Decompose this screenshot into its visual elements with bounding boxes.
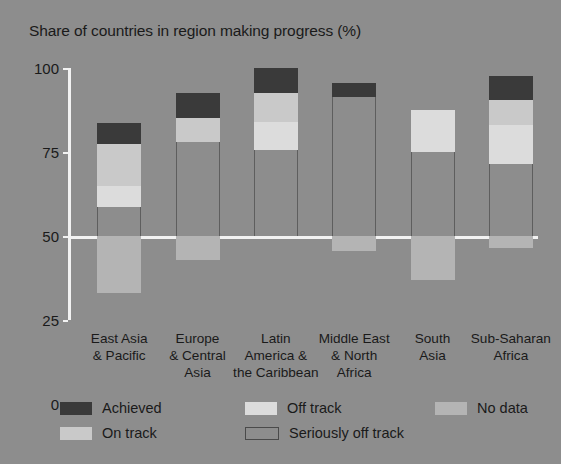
bar-segment-on-track[interactable]	[176, 118, 220, 142]
bar-segment-off-track[interactable]	[254, 122, 298, 151]
bar-segment-achieved[interactable]	[332, 83, 376, 96]
bar-segment-seriously-off-track[interactable]	[489, 164, 533, 236]
category-label-line: Asia	[387, 347, 477, 364]
bar-group-5[interactable]	[411, 68, 455, 320]
bar-segment-seriously-off-track[interactable]	[176, 142, 220, 236]
category-label-1: East Asia& Pacific	[74, 330, 164, 364]
bar-segment-no-data-negative[interactable]	[332, 236, 376, 251]
category-label-line: Sub-Saharan	[466, 330, 556, 347]
category-label-line: Africa	[309, 364, 399, 381]
legend-item-on-track[interactable]: On track	[60, 425, 157, 441]
legend-label: Achieved	[102, 400, 162, 416]
bar-segment-seriously-off-track[interactable]	[411, 152, 455, 236]
achieved-swatch	[60, 402, 92, 415]
plot-area: 100 75 50 25 0 −25 −50 East Asia& Pacifi…	[68, 68, 538, 320]
bar-segment-on-track[interactable]	[254, 93, 298, 122]
category-label-3: LatinAmerica &the Caribbean	[231, 330, 321, 381]
category-label-line: & Central	[152, 347, 242, 364]
legend-item-no-data[interactable]: No data	[435, 400, 528, 416]
seriously-off-track-swatch	[245, 427, 279, 440]
chart-legend: AchievedOn trackOff trackSeriously off t…	[60, 400, 530, 450]
chart-canvas: Share of countries in region making prog…	[0, 0, 561, 464]
bar-segment-no-data-negative[interactable]	[489, 236, 533, 248]
bar-group-4[interactable]	[332, 68, 376, 320]
bar-segment-no-data-negative[interactable]	[97, 236, 141, 293]
y-tick-label-75: 75	[42, 144, 59, 161]
bar-segment-on-track[interactable]	[97, 144, 141, 186]
bar-segment-achieved[interactable]	[97, 123, 141, 143]
bar-segment-off-track[interactable]	[97, 186, 141, 208]
bar-segment-achieved[interactable]	[489, 76, 533, 100]
bar-group-6[interactable]	[489, 68, 533, 320]
bar-segment-off-track[interactable]	[489, 125, 533, 164]
on-track-swatch	[60, 427, 92, 440]
category-label-line: Europe	[152, 330, 242, 347]
y-tick-label-50: 50	[42, 228, 59, 245]
category-label-line: & North	[309, 347, 399, 364]
bar-segment-achieved[interactable]	[254, 68, 298, 93]
chart-title: Share of countries in region making prog…	[29, 22, 361, 40]
category-label-2: Europe& CentralAsia	[152, 330, 242, 381]
category-label-line: Africa	[466, 347, 556, 364]
category-label-4: Middle East& NorthAfrica	[309, 330, 399, 381]
bar-segment-achieved[interactable]	[176, 93, 220, 118]
category-label-6: Sub-SaharanAfrica	[466, 330, 556, 364]
legend-label: No data	[477, 400, 528, 416]
bar-segment-on-track[interactable]	[489, 100, 533, 125]
bar-segment-seriously-off-track[interactable]	[332, 97, 376, 236]
legend-label: Seriously off track	[289, 425, 404, 441]
category-label-line: Latin	[231, 330, 321, 347]
bar-segment-no-data-negative[interactable]	[411, 236, 455, 280]
y-tick-label-100: 100	[34, 60, 59, 77]
category-label-line: & Pacific	[74, 347, 164, 364]
legend-label: Off track	[287, 400, 342, 416]
category-label-line: America &	[231, 347, 321, 364]
bar-segment-seriously-off-track[interactable]	[254, 150, 298, 236]
bar-group-3[interactable]	[254, 68, 298, 320]
bar-segment-no-data-negative[interactable]	[176, 236, 220, 260]
category-label-line: Asia	[152, 364, 242, 381]
y-axis-line	[68, 68, 71, 320]
category-label-5: SouthAsia	[387, 330, 477, 364]
bar-segment-seriously-off-track[interactable]	[97, 207, 141, 236]
legend-item-achieved[interactable]: Achieved	[60, 400, 162, 416]
bar-group-2[interactable]	[176, 68, 220, 320]
category-label-line: the Caribbean	[231, 364, 321, 381]
bar-segment-off-track[interactable]	[411, 110, 455, 152]
legend-item-off-track[interactable]: Off track	[245, 400, 342, 416]
legend-item-seriously-off-track[interactable]: Seriously off track	[245, 425, 404, 441]
bar-group-1[interactable]	[97, 68, 141, 320]
category-label-line: East Asia	[74, 330, 164, 347]
legend-label: On track	[102, 425, 157, 441]
off-track-swatch	[245, 402, 277, 415]
no-data-swatch	[435, 402, 467, 415]
category-label-line: South	[387, 330, 477, 347]
category-label-line: Middle East	[309, 330, 399, 347]
y-tick-label-25: 25	[42, 312, 59, 329]
y-tick-label-0: 0	[51, 396, 59, 413]
